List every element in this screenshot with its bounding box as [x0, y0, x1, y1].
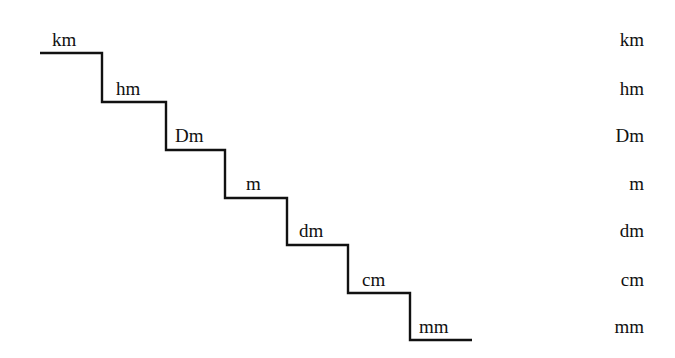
unit-label-mm: mm: [614, 317, 644, 336]
stair-label-hm: hm: [116, 79, 140, 98]
unit-label-dm: dm: [620, 221, 644, 240]
stair-label-mm: mm: [419, 317, 449, 336]
unit-label-km: km: [620, 30, 644, 49]
unit-label-cm: cm: [621, 270, 644, 289]
stair-label-dm: dm: [299, 221, 323, 240]
stair-label-m: m: [246, 174, 261, 193]
stair-label-cm: cm: [362, 270, 385, 289]
stair-label-Dm: Dm: [175, 126, 204, 145]
staircase-lines: [0, 0, 675, 358]
unit-label-hm: hm: [620, 79, 644, 98]
unit-label-Dm: Dm: [616, 126, 645, 145]
unit-label-m: m: [629, 174, 644, 193]
stair-label-km: km: [52, 30, 76, 49]
